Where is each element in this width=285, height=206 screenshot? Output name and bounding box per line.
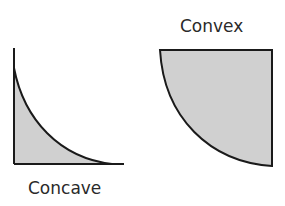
convex-label: Convex: [180, 16, 243, 36]
concave-shape: [14, 48, 124, 164]
concave-label: Concave: [28, 178, 101, 198]
convex-shape: [160, 50, 272, 166]
